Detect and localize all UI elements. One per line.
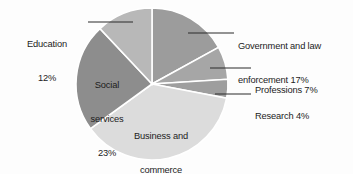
slice-label-research-text: Research 4% [255,111,351,122]
slice-label-education: Education 12% [8,16,86,107]
slice-label-business-line2: commerce [115,165,207,174]
slice-label-social-line1: Social [76,80,138,91]
slice-label-business-line1: Business and [115,131,207,142]
slice-label-research: Research 4% [255,88,351,145]
slice-label-government-line1: Government and law [238,41,350,52]
slice-label-business-and-commerce: Business and commerce 37% [115,108,207,174]
slice-label-education-name: Education [8,39,86,50]
slice-label-education-value: 12% [8,73,86,84]
pie-chart: Education 12% Government and law enforce… [0,0,353,174]
